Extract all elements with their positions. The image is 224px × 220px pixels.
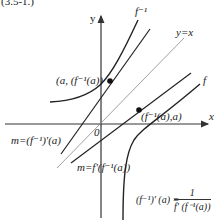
inverse-tangent-slope-label: m=(f⁻¹)'(a) — [11, 135, 61, 146]
point-f-label: (f⁻¹(a),a) — [141, 111, 182, 122]
formula-numerator: 1 — [174, 187, 211, 200]
formula-lhs: (f⁻¹)' (a) = — [136, 195, 179, 205]
origin-label: 0 — [94, 127, 100, 138]
f-inverse-label: f⁻¹ — [135, 6, 147, 17]
formula-fraction: 1 f' (f⁻¹(a)) — [174, 187, 211, 212]
inverse-function-derivative-diagram: (3.5-1.) y x 0 f⁻¹ y=x f (a, (f⁻¹(a)) (f… — [0, 0, 224, 220]
f-tangent-slope-label: m=f'(f⁻¹(a)) — [77, 162, 130, 173]
identity-line-label: y=x — [176, 27, 193, 38]
f-inverse-tangent-line — [61, 29, 150, 154]
y-axis-label: y — [90, 13, 96, 24]
f-inverse-curve — [50, 20, 138, 102]
formula-denominator: f' (f⁻¹(a)) — [174, 200, 211, 212]
f-label: f — [203, 75, 206, 86]
x-axis-label: x — [209, 111, 214, 122]
point-on-f-inverse — [107, 78, 113, 84]
caption-fragment: (3.5-1.) — [1, 0, 34, 7]
identity-line — [57, 38, 184, 168]
point-f-inverse-label: (a, (f⁻¹(a)) — [56, 75, 103, 86]
